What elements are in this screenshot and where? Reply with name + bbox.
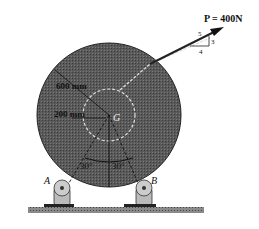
inner-radius-label: 200 mm xyxy=(54,109,85,119)
force-label: P = 400N xyxy=(204,13,243,24)
center-label-g: G xyxy=(113,112,120,123)
support-label-a: A xyxy=(43,175,51,186)
ground xyxy=(28,207,204,213)
base-plate-a xyxy=(44,204,74,207)
angle-right: 30° xyxy=(112,161,125,171)
slope-rise: 3 xyxy=(211,38,215,46)
force-arrow-line xyxy=(150,30,218,64)
slope-run: 4 xyxy=(199,48,203,56)
force-arrowhead xyxy=(210,27,224,36)
base-plate-b xyxy=(124,204,156,207)
support-label-b: B xyxy=(151,175,157,186)
roller-a xyxy=(54,180,70,206)
roller-b xyxy=(136,180,152,206)
spool-diagram: 4 3 5 P = 400N 600 mm 200 mm G 30° 30° A… xyxy=(0,0,259,229)
angle-left: 30° xyxy=(80,161,93,171)
outer-radius-label: 600 mm xyxy=(56,81,87,91)
slope-hyp: 5 xyxy=(198,30,202,38)
